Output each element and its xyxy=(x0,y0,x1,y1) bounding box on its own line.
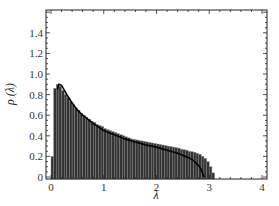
histogram-bar xyxy=(154,144,157,179)
histogram-bar xyxy=(101,127,104,179)
histogram-bar xyxy=(183,150,186,179)
histogram-bar xyxy=(159,145,162,179)
y-tick-label: 1.4 xyxy=(29,27,43,39)
y-tick-label: 0 xyxy=(38,171,44,183)
histogram-bar xyxy=(83,115,86,179)
histogram-bar xyxy=(85,117,88,179)
x-tick-label: 1 xyxy=(101,181,107,193)
histogram-bar xyxy=(146,142,149,179)
y-axis-title: ρ (λ) xyxy=(3,83,17,106)
histogram-bar xyxy=(117,134,120,179)
histogram-bar xyxy=(157,144,160,179)
histogram-bar xyxy=(80,113,83,179)
x-tick-label: 4 xyxy=(259,181,265,193)
histogram-bar xyxy=(69,102,72,179)
histogram-bar xyxy=(122,136,125,179)
histogram-bar xyxy=(135,140,138,179)
y-tick-label: 0.2 xyxy=(29,150,43,162)
histogram-bar xyxy=(88,119,91,179)
histogram-bar xyxy=(212,173,215,179)
histogram-bar xyxy=(149,143,152,180)
histogram-bar xyxy=(72,105,75,179)
histogram-bar xyxy=(98,126,101,180)
histogram-bar xyxy=(193,152,196,179)
y-tick-label: 1.0 xyxy=(29,68,43,80)
y-tick-label: 0.6 xyxy=(29,109,43,121)
histogram-bar xyxy=(64,95,67,179)
histogram-bar xyxy=(138,140,141,179)
histogram-bar xyxy=(112,132,115,179)
y-tick-label: 0.4 xyxy=(29,130,43,142)
histogram-bar xyxy=(104,129,107,179)
histogram-chart: 01234 00.20.40.60.81.01.21.4 λ ρ (λ) xyxy=(0,0,279,206)
y-tick-label: 1.2 xyxy=(29,47,43,59)
histogram-bar xyxy=(191,152,194,179)
histogram-bar xyxy=(141,141,144,179)
histogram-bar xyxy=(151,143,154,179)
histogram-bar xyxy=(96,124,99,179)
histogram-bar xyxy=(188,151,191,179)
histogram-bar xyxy=(114,133,117,179)
histogram-bar xyxy=(186,150,189,179)
histogram-bar xyxy=(143,141,146,179)
histogram-bar xyxy=(77,110,80,179)
histogram-bar xyxy=(59,86,62,179)
histogram-bar xyxy=(56,84,59,179)
x-tick-label: 3 xyxy=(207,181,213,193)
histogram-bar xyxy=(54,88,57,179)
histogram-bar xyxy=(109,131,112,179)
y-tick-label: 0.8 xyxy=(29,89,43,101)
histogram-bar xyxy=(93,122,96,179)
histogram-bar xyxy=(133,139,136,179)
histogram-bars xyxy=(51,84,215,179)
histogram-bar xyxy=(130,139,133,179)
histogram-bar xyxy=(67,98,70,179)
x-tick-label: 0 xyxy=(48,181,54,193)
histogram-bar xyxy=(75,108,78,179)
histogram-bar xyxy=(125,137,128,179)
histogram-bar xyxy=(62,90,65,179)
y-tick-labels: 00.20.40.60.81.01.21.4 xyxy=(29,27,43,183)
x-axis-title: λ xyxy=(152,188,158,202)
histogram-bar xyxy=(120,135,123,179)
histogram-bar xyxy=(91,121,94,179)
histogram-bar xyxy=(106,130,109,179)
histogram-bar xyxy=(127,138,130,179)
